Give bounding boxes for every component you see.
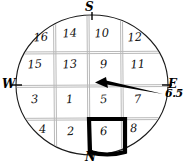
grid-cell-3[interactable]: 3 xyxy=(31,92,39,106)
grid-cell-8[interactable]: 8 xyxy=(130,121,138,135)
grid-cell-9[interactable]: 9 xyxy=(100,57,108,71)
grid-cell-1[interactable]: 1 xyxy=(66,92,74,106)
grid-cell-16[interactable]: 16 xyxy=(33,30,49,45)
grid-cell-11[interactable]: 11 xyxy=(130,57,146,72)
grid-cell-12[interactable]: 12 xyxy=(127,30,143,45)
grid-cell-6[interactable]: 6 xyxy=(100,124,108,138)
grid-cell-10[interactable]: 10 xyxy=(94,26,110,41)
compass-label-north: N xyxy=(85,151,96,163)
grid-cell-13[interactable]: 13 xyxy=(62,57,78,72)
compass-label-south: S xyxy=(85,1,94,13)
grid-cell-2[interactable]: 2 xyxy=(66,124,75,139)
grid-cell-15[interactable]: 15 xyxy=(27,57,43,72)
diagram-canvas: 16141012151391131574268 S N W E 6.5 xyxy=(0,0,184,166)
grid-cell-4[interactable]: 4 xyxy=(38,122,47,137)
compass-label-west: W xyxy=(2,78,15,90)
grid-cell-14[interactable]: 14 xyxy=(62,26,78,41)
circular-grid-diagram: 16141012151391131574268 xyxy=(0,0,184,166)
grid-cell-5[interactable]: 5 xyxy=(100,92,108,106)
reading-value-label: 6.5 xyxy=(165,88,183,99)
